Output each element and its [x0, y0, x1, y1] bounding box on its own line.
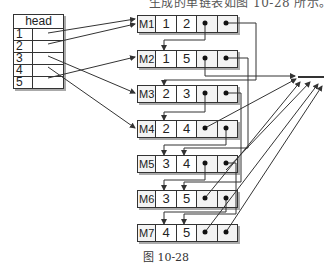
figure-caption: 图 10-28	[0, 248, 332, 264]
pointer-arrows	[0, 0, 332, 268]
